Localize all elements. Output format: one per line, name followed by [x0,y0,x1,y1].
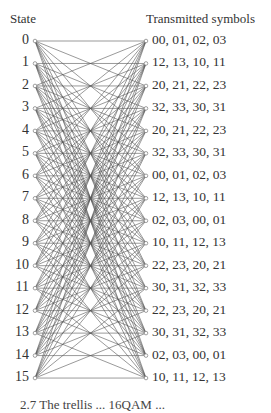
state-label: 12 [9,302,29,318]
symbol-label: 32, 33, 30, 31 [152,144,226,160]
state-label: 5 [9,144,29,160]
state-label: 1 [9,54,29,70]
state-node [33,264,37,268]
state-label: 10 [9,257,29,273]
symbol-label: 22, 23, 20, 21 [152,302,226,318]
next-state-node [144,152,148,156]
state-label: 4 [9,122,29,138]
state-label: 8 [9,212,29,228]
state-label: 14 [9,347,29,363]
state-node [33,62,37,66]
state-label: 13 [9,324,29,340]
state-label: 11 [9,279,29,295]
state-node [33,219,37,223]
next-state-node [144,174,148,178]
symbol-label: 00, 01, 02, 03 [152,32,226,48]
next-state-node [144,354,148,358]
state-node [33,354,37,358]
state-node [33,107,37,111]
state-node [33,39,37,43]
symbol-label: 20, 21, 22, 23 [152,77,226,93]
state-node [33,152,37,156]
symbol-label: 32, 33, 30, 31 [152,99,226,115]
next-state-node [144,39,148,43]
symbol-label: 20, 21, 22, 23 [152,122,226,138]
next-state-node [144,62,148,66]
next-state-node [144,84,148,88]
symbol-label: 30, 31, 32, 33 [152,324,226,340]
next-state-node [144,241,148,245]
symbol-label: 10, 11, 12, 13 [152,234,226,250]
next-state-node [144,331,148,335]
next-state-node [144,376,148,380]
symbol-label: 12, 13, 10, 11 [152,189,226,205]
next-state-node [144,286,148,290]
next-state-node [144,219,148,223]
symbol-label: 22, 23, 20, 21 [152,257,226,273]
state-node [33,309,37,313]
state-node [33,129,37,133]
state-node [33,196,37,200]
state-label: 7 [9,189,29,205]
state-node [33,174,37,178]
state-label: 6 [9,167,29,183]
state-label: 0 [9,32,29,48]
symbol-label: 02, 03, 00, 01 [152,347,226,363]
state-label: 9 [9,234,29,250]
next-state-node [144,264,148,268]
state-node [33,84,37,88]
symbol-label: 02, 03, 00, 01 [152,212,226,228]
state-node [33,331,37,335]
next-state-node [144,309,148,313]
symbol-label: 12, 13, 10, 11 [152,54,226,70]
state-label: 15 [9,369,29,385]
next-state-node [144,196,148,200]
symbol-label: 30, 31, 32, 33 [152,279,226,295]
next-state-node [144,129,148,133]
figure-caption: 2.7 The trellis ... 16QAM ... [20,397,165,413]
state-node [33,376,37,380]
state-label: 2 [9,77,29,93]
next-state-node [144,107,148,111]
symbol-label: 10, 11, 12, 13 [152,369,226,385]
state-node [33,286,37,290]
state-node [33,241,37,245]
symbol-label: 00, 01, 02, 03 [152,167,226,183]
state-label: 3 [9,99,29,115]
